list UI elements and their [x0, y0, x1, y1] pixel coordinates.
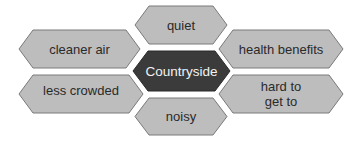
node-noisy: noisy [134, 97, 228, 136]
node-label-line2: get to [265, 94, 298, 109]
node-label: noisy [166, 109, 196, 124]
center-label: Countryside [145, 64, 217, 79]
node-label-line1: hard to [261, 79, 301, 94]
node-label: cleaner air [49, 42, 110, 57]
node-countryside: Countryside [132, 50, 231, 92]
node-less-crowded: less crowded [18, 74, 144, 114]
node-hard-to-get-to: hard to get to [218, 74, 344, 114]
node-label: less crowded [43, 83, 119, 98]
node-label: quiet [167, 18, 195, 33]
node-cleaner-air: cleaner air [18, 29, 141, 69]
node-label: health benefits [239, 42, 324, 57]
node-health-benefits: health benefits [218, 29, 344, 69]
node-quiet: quiet [134, 5, 228, 45]
